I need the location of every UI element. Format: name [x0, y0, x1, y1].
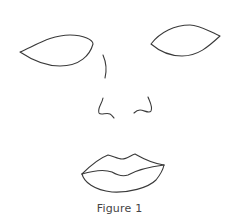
right-nostril [134, 97, 152, 113]
face-drawing [0, 0, 239, 219]
left-nostril [99, 98, 114, 118]
lips-mid-line [82, 165, 164, 176]
left-eye [20, 35, 93, 66]
figure-caption: Figure 1 [0, 202, 239, 215]
right-eye [151, 25, 220, 56]
lower-lip [82, 165, 164, 192]
face-figure [0, 0, 239, 219]
nose-bridge [103, 55, 106, 78]
